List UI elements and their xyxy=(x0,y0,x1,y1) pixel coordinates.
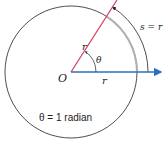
caption-label: θ = 1 radian xyxy=(39,112,92,123)
angle-label: θ xyxy=(96,55,102,65)
radius-label-bottom: r xyxy=(102,75,108,86)
arc-s-highlight xyxy=(107,17,137,72)
arc-length-arrow xyxy=(113,7,148,72)
angle-arc xyxy=(86,52,97,72)
radian-diagram: O r r θ s = r θ = 1 radian xyxy=(0,0,165,144)
arc-length-label: s = r xyxy=(140,22,163,32)
origin-label: O xyxy=(58,72,67,85)
